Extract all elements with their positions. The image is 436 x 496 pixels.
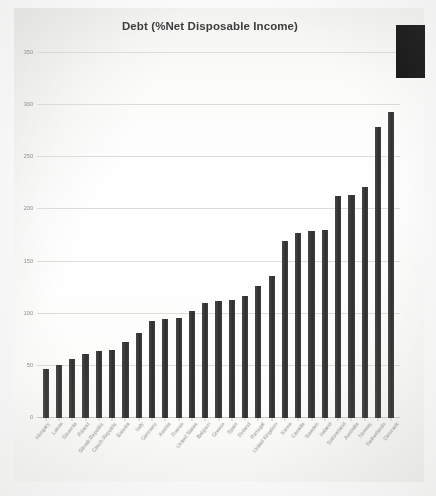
bar: [255, 286, 261, 418]
bar: [348, 195, 354, 418]
bar-slot: [39, 53, 52, 418]
bar-slot: [305, 53, 318, 418]
bar: [308, 231, 314, 418]
bar: [242, 296, 248, 418]
bar: [375, 127, 381, 418]
bar: [322, 230, 328, 418]
bar-slot: [185, 53, 198, 418]
y-axis-tick-label: 150: [24, 258, 33, 264]
bar: [43, 369, 49, 418]
bar: [362, 187, 368, 419]
chart-title: Debt (%Net Disposable Income): [60, 20, 360, 32]
bar-chart: Debt (%Net Disposable Income) 0501001502…: [0, 0, 436, 496]
bar-slot: [225, 53, 238, 418]
bar: [295, 233, 301, 418]
bar-slot: [212, 53, 225, 418]
screenshot-root: Debt (%Net Disposable Income) 0501001502…: [0, 0, 436, 496]
y-axis-tick-label: 100: [24, 310, 33, 316]
bar: [96, 351, 102, 418]
bar-series: [37, 53, 400, 418]
bar-slot: [265, 53, 278, 418]
y-axis-tick-label: 300: [24, 101, 33, 107]
bar: [56, 365, 62, 418]
x-axis-category-label: Hungary: [34, 421, 51, 440]
bar-slot: [371, 53, 384, 418]
plot-area: 050100150200250300350: [37, 53, 400, 418]
y-axis-tick-label: 350: [24, 49, 33, 55]
bar: [82, 354, 88, 418]
x-axis-category-labels: HungaryLatviaSloveniaPolandSlovak Republ…: [37, 421, 400, 481]
bar-slot: [318, 53, 331, 418]
x-axis-category-label: Austria: [157, 421, 172, 437]
bar: [122, 342, 128, 418]
bar-slot: [145, 53, 158, 418]
y-axis-tick-label: 0: [30, 414, 33, 420]
bar-slot: [132, 53, 145, 418]
bar-slot: [385, 53, 398, 418]
x-axis-category-label: Greece: [210, 421, 225, 438]
bar-slot: [119, 53, 132, 418]
bar-slot: [238, 53, 251, 418]
bar-slot: [332, 53, 345, 418]
bar-slot: [252, 53, 265, 418]
bar: [189, 311, 195, 418]
x-axis-category-label: Estonia: [116, 421, 131, 438]
bar-slot: [358, 53, 371, 418]
bar-slot: [199, 53, 212, 418]
x-axis-category-label: Italy: [134, 421, 145, 432]
bar-slot: [52, 53, 65, 418]
y-axis-tick-label: 200: [24, 205, 33, 211]
bar: [149, 321, 155, 418]
bar: [176, 318, 182, 418]
bar-slot: [345, 53, 358, 418]
bar: [269, 276, 275, 418]
bar-slot: [92, 53, 105, 418]
bar-slot: [159, 53, 172, 418]
bar-slot: [79, 53, 92, 418]
bar: [202, 303, 208, 418]
dark-rectangle-occlusion: [396, 25, 425, 78]
bar-slot: [66, 53, 79, 418]
y-axis-tick-label: 250: [24, 153, 33, 159]
y-axis-tick-label: 50: [27, 362, 33, 368]
bar: [388, 112, 394, 418]
bar: [69, 359, 75, 418]
bar-slot: [278, 53, 291, 418]
bar-slot: [292, 53, 305, 418]
bar: [136, 333, 142, 419]
bar: [335, 196, 341, 418]
bar: [109, 350, 115, 418]
bar-slot: [172, 53, 185, 418]
bar: [229, 300, 235, 418]
bar: [162, 319, 168, 418]
bar: [282, 241, 288, 418]
bar-slot: [105, 53, 118, 418]
bar: [215, 301, 221, 418]
